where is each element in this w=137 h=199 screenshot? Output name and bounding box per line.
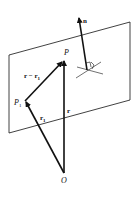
vector-r1	[26, 102, 64, 173]
label-r1: r1	[40, 114, 46, 123]
plane-vector-diagram: n P r − r1 P1 r1 r O	[0, 0, 137, 199]
vector-r-minus-r1	[25, 62, 62, 101]
label-r: r	[67, 107, 70, 115]
label-o: O	[61, 176, 67, 185]
label-p1: P1	[13, 98, 22, 108]
plane-line-2	[77, 67, 103, 74]
normal-vector-n	[79, 18, 87, 70]
label-r-minus-r1: r − r1	[24, 72, 41, 81]
label-p: P	[63, 48, 69, 57]
label-n: n	[83, 17, 87, 25]
